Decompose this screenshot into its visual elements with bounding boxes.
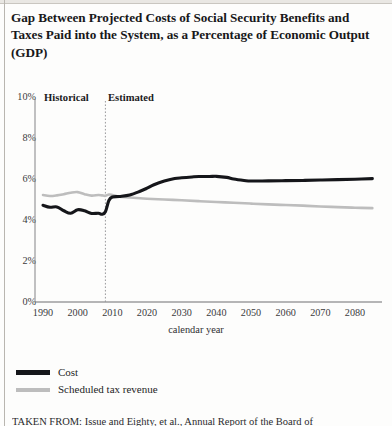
chart-legend: Cost Scheduled tax revenue bbox=[16, 364, 158, 398]
series-line-scheduled-tax-revenue bbox=[43, 192, 372, 208]
legend-label-tax-revenue: Scheduled tax revenue bbox=[58, 384, 158, 395]
legend-item-cost: Cost bbox=[16, 364, 158, 381]
figure-source-note: TAKEN FROM: Issue and Eighty, et al., An… bbox=[12, 416, 388, 426]
legend-swatch-cost-icon bbox=[16, 370, 50, 375]
legend-item-tax-revenue: Scheduled tax revenue bbox=[16, 381, 158, 398]
figure-title: Gap Between Projected Costs of Social Se… bbox=[11, 9, 383, 61]
figure-page: Gap Between Projected Costs of Social Se… bbox=[0, 0, 392, 426]
page-top-rule bbox=[0, 3, 392, 4]
legend-swatch-tax-revenue-icon bbox=[16, 388, 50, 392]
legend-label-cost: Cost bbox=[58, 367, 78, 378]
x-axis-title: calendar year bbox=[0, 324, 392, 335]
line-chart-plot bbox=[0, 86, 392, 326]
